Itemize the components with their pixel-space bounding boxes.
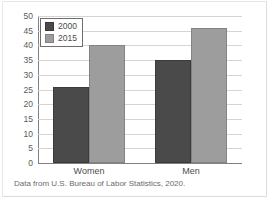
legend-swatch-2000 bbox=[45, 22, 54, 31]
y-tick-label-30: 30 bbox=[24, 71, 33, 80]
legend-label-2015: 2015 bbox=[58, 34, 77, 43]
bar-chart-figure: 05101520253035404550 WomenMen 2000 2015 … bbox=[0, 0, 271, 207]
y-tick-label-10: 10 bbox=[24, 129, 33, 138]
bar-men-2000 bbox=[155, 60, 191, 163]
y-tick-label-50: 50 bbox=[24, 12, 33, 21]
legend-label-2000: 2000 bbox=[58, 22, 77, 31]
y-tick-label-45: 45 bbox=[24, 26, 33, 35]
y-tick-label-15: 15 bbox=[24, 115, 33, 124]
y-tick-label-0: 0 bbox=[28, 159, 33, 168]
bar-women-2000 bbox=[53, 87, 89, 163]
y-tick-label-5: 5 bbox=[28, 144, 33, 153]
figure-caption: Data from U.S. Bureau of Labor Statistic… bbox=[14, 180, 185, 188]
legend-item-2000: 2000 bbox=[45, 22, 77, 31]
legend-swatch-2015 bbox=[45, 34, 54, 43]
legend-item-2015: 2015 bbox=[45, 34, 77, 43]
y-tick-label-20: 20 bbox=[24, 100, 33, 109]
bar-women-2015 bbox=[89, 45, 125, 163]
bar-men-2015 bbox=[191, 28, 227, 163]
y-tick-label-40: 40 bbox=[24, 41, 33, 50]
y-tick-label-35: 35 bbox=[24, 56, 33, 65]
x-label-women: Women bbox=[74, 167, 105, 176]
y-tick-label-25: 25 bbox=[24, 85, 33, 94]
chart-legend: 2000 2015 bbox=[40, 18, 83, 47]
x-label-men: Men bbox=[182, 167, 200, 176]
